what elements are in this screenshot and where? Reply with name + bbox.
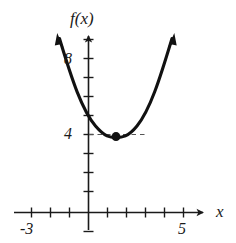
y-tick-label-8: 8 xyxy=(64,51,72,67)
x-tick-label-minus-3: -3 xyxy=(20,221,33,237)
curve-arrow-right-icon xyxy=(168,33,177,47)
x-tick-label-5: 5 xyxy=(178,221,186,237)
plot-canvas xyxy=(0,0,236,243)
graph-figure: f(x) x 8 4 -3 5 xyxy=(0,0,236,243)
curve-arrow-left-icon xyxy=(55,33,64,47)
x-axis-label: x xyxy=(216,203,224,220)
y-axis-label: f(x) xyxy=(70,10,94,27)
y-tick-label-4: 4 xyxy=(64,126,72,142)
parabola-curve xyxy=(60,39,173,138)
vertex-point-marker xyxy=(112,132,121,141)
